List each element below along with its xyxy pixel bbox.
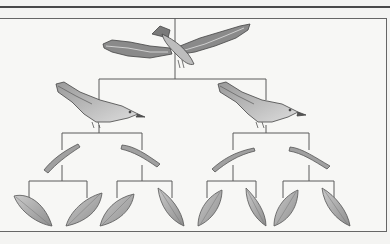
eagle-icon [103,24,250,68]
leaf-icon [322,188,350,226]
leaf-icon [158,188,184,226]
food-chain-diagram [0,0,390,244]
leaf-icon [198,190,222,226]
caterpillar-icon [121,145,160,167]
leaf-icon [274,190,298,226]
songbird-right-icon [218,82,306,128]
songbird-left-icon [56,82,145,128]
